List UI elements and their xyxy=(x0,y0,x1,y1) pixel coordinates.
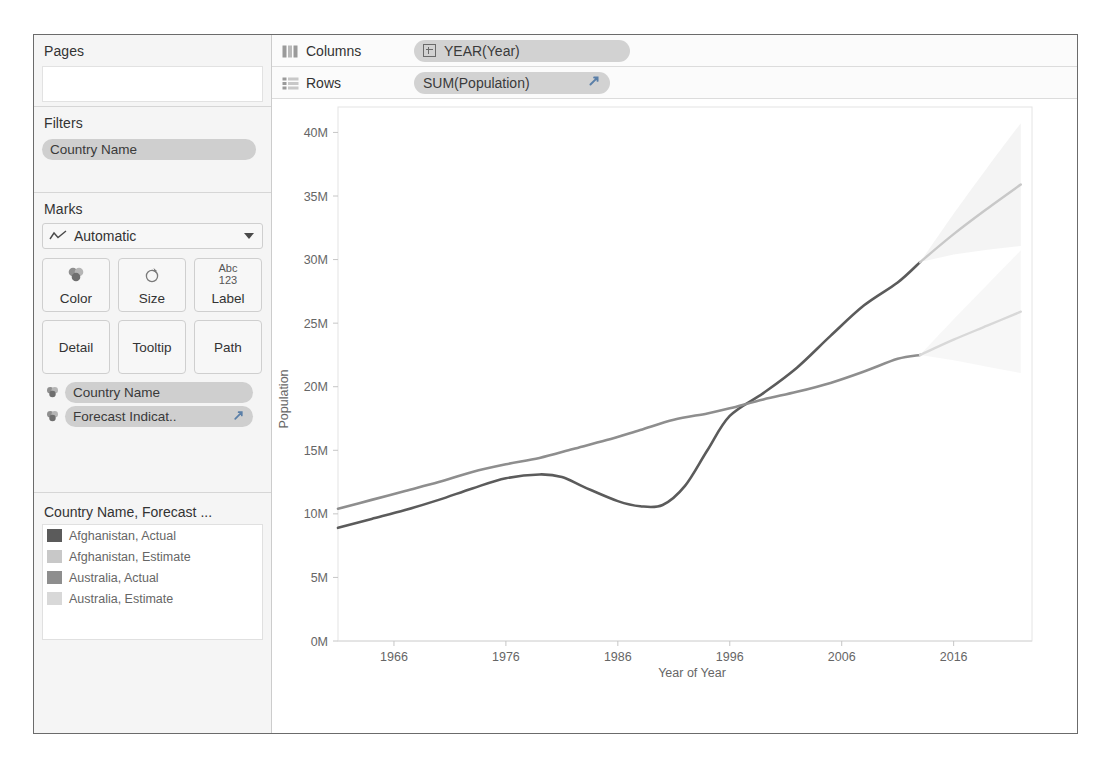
marks-label-button[interactable]: Abc 123 Label xyxy=(194,258,262,312)
marks-pill-label: Country Name xyxy=(73,385,160,400)
y-tick-label: 20M xyxy=(304,380,328,394)
marks-pill-forecast-indicator-row: Forecast Indicat.. xyxy=(42,406,263,427)
x-tick-label: 1966 xyxy=(380,650,408,664)
y-axis-title: Population xyxy=(277,369,291,428)
marks-pill-forecast-indicator[interactable]: Forecast Indicat.. xyxy=(65,406,253,427)
legend-swatch xyxy=(47,592,62,605)
legend-item[interactable]: Afghanistan, Actual xyxy=(43,525,262,546)
legend-item-label: Australia, Actual xyxy=(69,571,159,585)
forecast-arrow-icon xyxy=(232,409,245,425)
rows-shelf[interactable]: Rows SUM(Population) xyxy=(272,67,1077,99)
expand-plus-icon[interactable] xyxy=(423,44,436,57)
columns-shelf[interactable]: Columns YEAR(Year) xyxy=(272,35,1077,67)
legend-item-label: Afghanistan, Actual xyxy=(69,529,176,543)
legend-swatch xyxy=(47,550,62,563)
color-legend-card: Country Name, Forecast ... Afghanistan, … xyxy=(34,493,271,733)
population-forecast-line-chart: Population 0M5M10M15M20M25M30M35M40M 196… xyxy=(272,99,1077,733)
chevron-down-icon[interactable] xyxy=(244,233,254,239)
y-tick-label: 30M xyxy=(304,253,328,267)
y-tick-label: 0M xyxy=(311,635,328,649)
label-icon: Abc 123 xyxy=(219,259,238,291)
y-tick-label: 10M xyxy=(304,507,328,521)
filters-card: Filters Country Name xyxy=(34,107,271,193)
rows-pill-population[interactable]: SUM(Population) xyxy=(414,72,610,94)
columns-icon xyxy=(282,44,299,57)
rows-pill-label: SUM(Population) xyxy=(423,75,530,91)
pages-card-title: Pages xyxy=(42,41,263,65)
rows-icon xyxy=(282,76,299,89)
x-tick-label: 1976 xyxy=(492,650,520,664)
pages-card: Pages xyxy=(34,35,271,107)
x-axis: 196619761986199620062016 xyxy=(338,641,1032,664)
x-tick-label: 1986 xyxy=(604,650,632,664)
size-icon xyxy=(142,259,162,291)
marks-button-row-2: Detail Tooltip Path xyxy=(42,320,263,374)
marks-detail-button[interactable]: Detail xyxy=(42,320,110,374)
mark-type-label: Automatic xyxy=(74,228,136,244)
marks-pill-label: Forecast Indicat.. xyxy=(73,409,177,424)
color-palette-icon xyxy=(42,385,62,400)
legend-item-label: Australia, Estimate xyxy=(69,592,173,606)
marks-button-row-1: Color Size Abc 123 xyxy=(42,258,263,312)
filter-pill-country-name[interactable]: Country Name xyxy=(42,139,256,160)
mark-type-dropdown[interactable]: Automatic xyxy=(42,223,263,249)
y-axis: 0M5M10M15M20M25M30M35M40M xyxy=(304,126,338,649)
marks-pill-country-name[interactable]: Country Name xyxy=(65,382,253,403)
legend-item[interactable]: Australia, Estimate xyxy=(43,588,262,609)
chart-canvas[interactable]: Population 0M5M10M15M20M25M30M35M40M 196… xyxy=(272,99,1077,733)
pages-shelf-dropzone[interactable] xyxy=(42,66,263,102)
marks-detail-label: Detail xyxy=(59,340,94,355)
legend-swatch xyxy=(47,571,62,584)
x-tick-label: 1996 xyxy=(716,650,744,664)
legend-swatch xyxy=(47,529,62,542)
marks-card: Marks Automatic xyxy=(34,193,271,493)
y-tick-label: 5M xyxy=(311,571,328,585)
color-palette-icon xyxy=(65,259,87,291)
marks-size-button[interactable]: Size xyxy=(118,258,186,312)
legend-item[interactable]: Australia, Actual xyxy=(43,567,262,588)
tableau-worksheet-window: Pages Filters Country Name Marks Autom xyxy=(33,34,1078,734)
filters-shelf-dropzone[interactable]: Country Name xyxy=(42,137,263,191)
columns-pill-label: YEAR(Year) xyxy=(444,43,520,59)
filter-pill-label: Country Name xyxy=(50,142,137,157)
left-sidebar: Pages Filters Country Name Marks Autom xyxy=(34,35,272,733)
y-tick-label: 15M xyxy=(304,444,328,458)
columns-shelf-label: Columns xyxy=(306,43,414,59)
columns-pill-year[interactable]: YEAR(Year) xyxy=(414,40,630,62)
forecast-arrow-icon xyxy=(587,74,601,91)
marks-color-button[interactable]: Color xyxy=(42,258,110,312)
rows-shelf-label: Rows xyxy=(306,75,414,91)
marks-card-title: Marks xyxy=(42,199,263,223)
marks-pill-country-name-row: Country Name xyxy=(42,382,263,403)
color-legend-title: Country Name, Forecast ... xyxy=(42,501,263,524)
y-tick-label: 25M xyxy=(304,317,328,331)
color-palette-icon xyxy=(42,409,62,424)
legend-item-label: Afghanistan, Estimate xyxy=(69,550,191,564)
marks-label-label: Label xyxy=(211,291,244,306)
marks-path-button[interactable]: Path xyxy=(194,320,262,374)
marks-size-label: Size xyxy=(139,291,165,306)
marks-color-label: Color xyxy=(60,291,92,306)
x-tick-label: 2006 xyxy=(828,650,856,664)
y-tick-label: 35M xyxy=(304,190,328,204)
legend-item[interactable]: Afghanistan, Estimate xyxy=(43,546,262,567)
color-legend-items: Afghanistan, Actual Afghanistan, Estimat… xyxy=(42,524,263,640)
x-axis-title: Year of Year xyxy=(658,666,726,680)
filters-card-title: Filters xyxy=(42,113,263,137)
marks-tooltip-button[interactable]: Tooltip xyxy=(118,320,186,374)
worksheet-panel: Columns YEAR(Year) Rows SUM(Popula xyxy=(272,35,1077,733)
plot-area-border xyxy=(338,107,1032,641)
y-tick-label: 40M xyxy=(304,126,328,140)
marks-tooltip-label: Tooltip xyxy=(132,340,171,355)
x-tick-label: 2016 xyxy=(940,650,968,664)
marks-path-label: Path xyxy=(214,340,242,355)
line-chart-icon xyxy=(49,230,67,242)
